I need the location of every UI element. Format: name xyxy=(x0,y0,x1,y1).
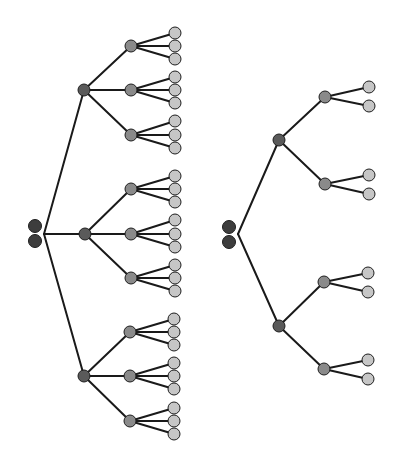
edge-root-to-level1 xyxy=(238,234,279,326)
leaf-node xyxy=(363,100,375,112)
leaf-node xyxy=(169,183,181,195)
edge-level2-to-leaf xyxy=(325,175,369,184)
edge-level2-to-leaf xyxy=(131,176,175,189)
leaf-node xyxy=(169,115,181,127)
leaf-node xyxy=(169,214,181,226)
edge-level2-to-leaf xyxy=(130,376,174,389)
edge-level2-to-leaf xyxy=(131,278,175,291)
level1-node xyxy=(79,228,91,240)
edge-level2-to-leaf xyxy=(130,319,174,332)
edge-root-to-level1 xyxy=(44,90,84,234)
level2-node xyxy=(125,272,137,284)
edge-level2-to-leaf xyxy=(325,184,369,194)
leaf-node xyxy=(169,196,181,208)
leaf-node xyxy=(168,357,180,369)
root-node xyxy=(29,235,42,248)
leaf-node xyxy=(169,71,181,83)
root-node xyxy=(223,236,236,249)
leaf-node xyxy=(169,285,181,297)
level1-node xyxy=(273,320,285,332)
level2-node xyxy=(125,183,137,195)
leaf-node xyxy=(169,259,181,271)
leaf-node xyxy=(168,383,180,395)
edge-level2-to-leaf xyxy=(131,234,175,247)
nodes xyxy=(29,27,376,440)
edge-level2-to-leaf xyxy=(131,189,175,202)
edge-level1-to-level2 xyxy=(279,282,324,326)
leaf-node xyxy=(168,415,180,427)
leaf-node xyxy=(168,370,180,382)
leaf-node xyxy=(168,428,180,440)
edge-level2-to-leaf xyxy=(324,282,368,292)
edge-level1-to-level2 xyxy=(85,189,131,234)
edge-level2-to-leaf xyxy=(130,332,174,345)
leaf-node xyxy=(168,339,180,351)
level2-node xyxy=(319,178,331,190)
edge-level1-to-level2 xyxy=(84,376,130,421)
level2-node xyxy=(125,228,137,240)
leaf-node xyxy=(169,241,181,253)
level2-node xyxy=(319,91,331,103)
edge-level2-to-leaf xyxy=(131,220,175,234)
leaf-node xyxy=(169,40,181,52)
level1-node xyxy=(78,84,90,96)
leaf-node xyxy=(169,170,181,182)
edge-level2-to-leaf xyxy=(131,121,175,135)
edge-level2-to-leaf xyxy=(325,97,369,106)
edge-level2-to-leaf xyxy=(324,360,368,369)
leaf-node xyxy=(169,228,181,240)
edge-level1-to-level2 xyxy=(84,90,131,135)
level1-node xyxy=(78,370,90,382)
root-node xyxy=(29,220,42,233)
edge-level2-to-leaf xyxy=(324,273,368,282)
edge-level1-to-level2 xyxy=(279,326,324,369)
edge-level2-to-leaf xyxy=(131,77,175,90)
leaf-node xyxy=(169,53,181,65)
edge-level2-to-leaf xyxy=(131,265,175,278)
leaf-node xyxy=(169,84,181,96)
leaf-node xyxy=(362,354,374,366)
leaf-node xyxy=(363,188,375,200)
edge-level2-to-leaf xyxy=(130,363,174,376)
edge-level1-to-level2 xyxy=(84,46,131,90)
edge-level2-to-leaf xyxy=(324,369,368,379)
leaf-node xyxy=(168,313,180,325)
leaf-node xyxy=(362,267,374,279)
level1-node xyxy=(273,134,285,146)
level2-node xyxy=(124,370,136,382)
leaf-node xyxy=(169,97,181,109)
edge-level2-to-leaf xyxy=(131,90,175,103)
edge-level2-to-leaf xyxy=(130,421,174,434)
level2-node xyxy=(125,84,137,96)
level2-node xyxy=(124,326,136,338)
edge-root-to-level1 xyxy=(44,234,84,376)
edge-level2-to-leaf xyxy=(131,46,175,59)
edge-level2-to-leaf xyxy=(130,408,174,421)
edge-level1-to-level2 xyxy=(84,332,130,376)
level2-node xyxy=(318,276,330,288)
edge-level2-to-leaf xyxy=(131,135,175,148)
level2-node xyxy=(124,415,136,427)
leaf-node xyxy=(169,129,181,141)
tree-diagram xyxy=(0,0,405,462)
edge-level1-to-level2 xyxy=(279,97,325,140)
edge-root-to-level1 xyxy=(238,140,279,234)
leaf-node xyxy=(169,27,181,39)
edge-level2-to-leaf xyxy=(131,33,175,46)
edge-level2-to-leaf xyxy=(325,87,369,97)
edge-level1-to-level2 xyxy=(85,234,131,278)
leaf-node xyxy=(362,286,374,298)
level2-node xyxy=(125,40,137,52)
level2-node xyxy=(318,363,330,375)
leaf-node xyxy=(362,373,374,385)
level2-node xyxy=(125,129,137,141)
leaf-node xyxy=(168,402,180,414)
leaf-node xyxy=(363,81,375,93)
leaf-node xyxy=(169,272,181,284)
leaf-node xyxy=(363,169,375,181)
leaf-node xyxy=(169,142,181,154)
leaf-node xyxy=(168,326,180,338)
root-node xyxy=(223,221,236,234)
edge-level1-to-level2 xyxy=(279,140,325,184)
